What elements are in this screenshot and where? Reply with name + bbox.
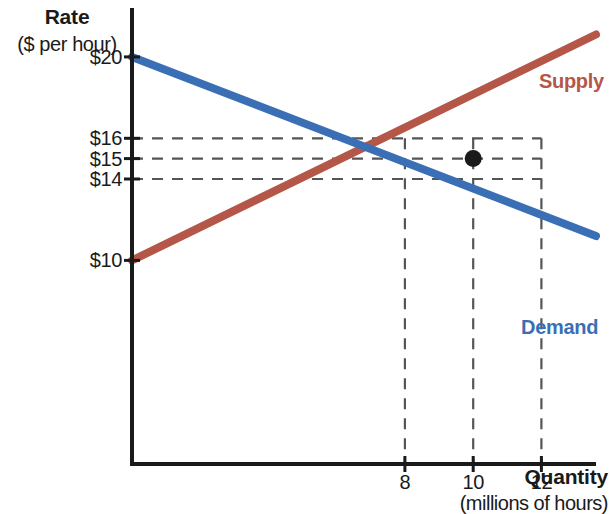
y-tick-label-20: $20 — [48, 47, 122, 67]
supply-curve-label: Supply — [539, 71, 604, 91]
supply-demand-chart: Rate ($ per hour) $20 $16 $15 $14 $10 8 … — [0, 0, 610, 514]
x-axis-title-line1: Quantity — [460, 466, 608, 487]
x-axis-title-line2: (millions of hours) — [460, 493, 608, 513]
y-tick-label-14: $14 — [48, 169, 122, 189]
x-axis-title: Quantity (millions of hours) — [460, 466, 608, 513]
equilibrium-point-marker — [465, 150, 482, 167]
x-tick-label-8: 8 — [383, 472, 427, 492]
y-tick-label-16: $16 — [48, 128, 122, 148]
demand-curve — [132, 57, 596, 236]
demand-curve-label: Demand — [521, 317, 598, 337]
y-tick-label-15: $15 — [48, 149, 122, 169]
y-axis-title-line1: Rate — [8, 6, 126, 27]
y-tick-label-10: $10 — [48, 250, 122, 270]
